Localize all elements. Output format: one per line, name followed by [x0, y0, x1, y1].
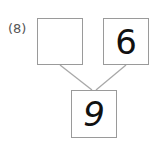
- whole-box: 9: [71, 90, 117, 138]
- right-connector: [96, 65, 126, 90]
- left-part-box[interactable]: [37, 18, 83, 65]
- left-connector: [60, 65, 92, 90]
- right-part-box: 6: [103, 18, 149, 65]
- problem-label: (8): [8, 21, 26, 36]
